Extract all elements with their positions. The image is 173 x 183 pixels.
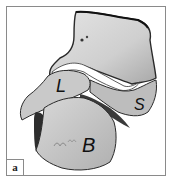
label-b: B [82, 134, 95, 156]
bone-illustration: L S B [0, 0, 173, 183]
b-bone [36, 97, 116, 170]
panel-label: a [6, 159, 24, 176]
label-s: S [134, 96, 145, 113]
label-l: L [56, 76, 66, 96]
